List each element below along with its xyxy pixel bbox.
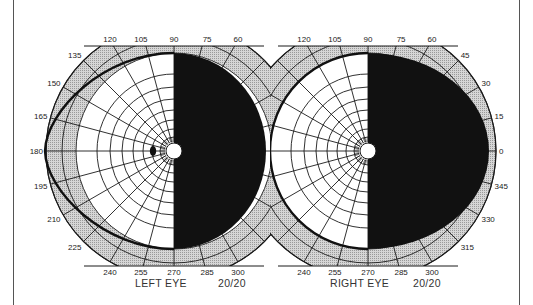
right-eye-field: 1201059075604530150345330315240255270285…	[240, 23, 508, 279]
angle-label: 60	[234, 35, 243, 44]
angle-label: 255	[328, 268, 342, 277]
angle-label: 345	[495, 182, 509, 191]
angle-label: 75	[397, 35, 406, 44]
angle-label: 240	[103, 268, 117, 277]
angle-label: 285	[394, 268, 408, 277]
angle-label: 300	[425, 268, 439, 277]
left-eye-acuity: 20/20	[218, 277, 246, 289]
left-eye-field: 1201059075601351501651801952102252402552…	[30, 23, 302, 279]
angle-label: 90	[170, 35, 179, 44]
angle-label: 75	[203, 35, 212, 44]
angle-label: 30	[481, 79, 490, 88]
right-eye-caption: RIGHT EYE	[330, 277, 389, 289]
angle-label: 165	[34, 112, 48, 121]
angle-label: 90	[364, 35, 373, 44]
angle-label: 255	[134, 268, 148, 277]
angle-label: 105	[328, 35, 342, 44]
angle-label: 15	[495, 112, 504, 121]
angle-label: 0	[499, 147, 504, 156]
angle-label: 315	[461, 243, 475, 252]
angle-label: 270	[167, 268, 181, 277]
angle-label: 45	[461, 51, 470, 60]
angle-label: 105	[134, 35, 148, 44]
angle-label: 150	[47, 79, 61, 88]
left-eye-caption: LEFT EYE	[135, 277, 187, 289]
angle-label: 120	[103, 35, 117, 44]
visual-field-chart: 1201059075601351501651801952102252402552…	[0, 0, 533, 305]
angle-label: 285	[200, 268, 214, 277]
angle-label: 120	[297, 35, 311, 44]
right-eye-acuity: 20/20	[413, 277, 441, 289]
angle-label: 195	[34, 182, 48, 191]
angle-label: 135	[68, 51, 82, 60]
angle-label: 210	[47, 215, 61, 224]
angle-label: 225	[68, 243, 82, 252]
angle-label: 330	[481, 215, 495, 224]
angle-label: 180	[30, 147, 44, 156]
angle-label: 240	[297, 268, 311, 277]
angle-label: 270	[361, 268, 375, 277]
angle-label: 300	[231, 268, 245, 277]
angle-label: 60	[428, 35, 437, 44]
